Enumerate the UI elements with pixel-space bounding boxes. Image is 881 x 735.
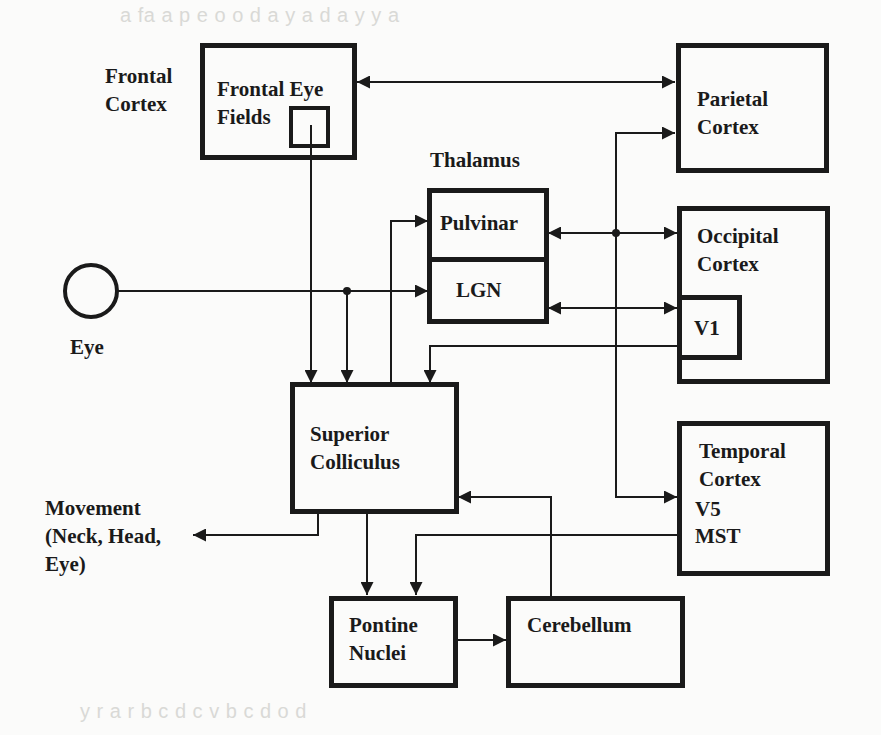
- junction-dot: [612, 229, 620, 237]
- junction-dot: [343, 287, 351, 295]
- edge-v1-sc: [430, 346, 677, 383]
- pontine-nuclei-label: Pontine Nuclei: [349, 611, 418, 667]
- frontal-cortex-label: Frontal Cortex: [105, 62, 172, 118]
- parietal-cortex-label: Parietal Cortex: [697, 85, 768, 141]
- edge-sc-pulvinar: [391, 221, 428, 383]
- frontal-eye-fields-inner-box: [289, 106, 330, 148]
- pulvinar-label: Pulvinar: [440, 209, 518, 237]
- movement-label: Movement (Neck, Head, Eye): [45, 494, 161, 578]
- edge-pulvinar-temporal: [616, 233, 677, 497]
- edge-cerebellum-sc: [458, 497, 551, 597]
- cerebellum-label: Cerebellum: [527, 611, 632, 639]
- occipital-cortex-label: Occipital Cortex: [697, 222, 779, 278]
- v1-label: V1: [694, 314, 720, 342]
- thalamus-label: Thalamus: [430, 146, 520, 174]
- edge-mst-pontine: [416, 535, 677, 595]
- edge-pulvinar-parietal: [616, 133, 675, 233]
- eye-label: Eye: [70, 333, 104, 361]
- v5-label: V5: [695, 495, 721, 523]
- eye-icon: [65, 265, 117, 317]
- mst-label: MST: [695, 522, 741, 550]
- edge-sc-movement: [193, 512, 318, 535]
- temporal-cortex-label: Temporal Cortex: [699, 437, 786, 493]
- lgn-label: LGN: [456, 276, 502, 304]
- cerebellum-box[interactable]: [506, 596, 685, 688]
- superior-colliculus-label: Superior Colliculus: [310, 420, 400, 476]
